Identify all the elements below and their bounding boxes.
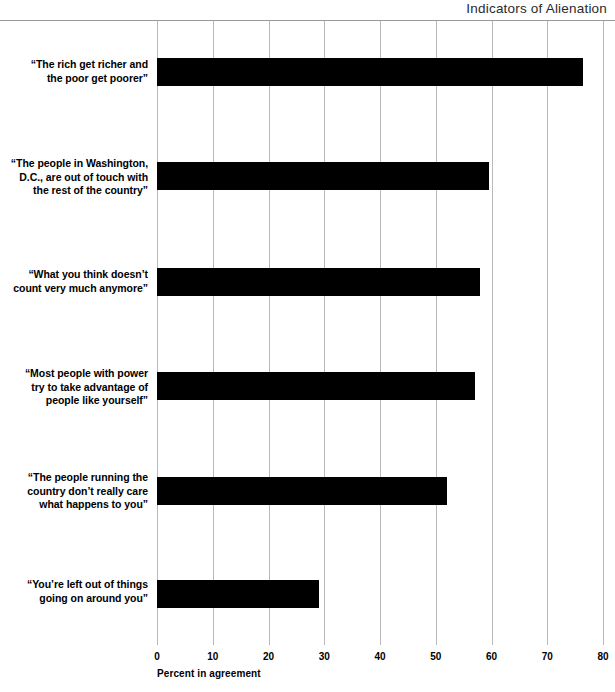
bar: [157, 372, 475, 400]
category-label-line: “The rich get richer and: [0, 58, 148, 72]
category-label-line: country don’t really care: [0, 485, 148, 499]
gridline: [492, 21, 493, 645]
x-tick-label: 60: [486, 651, 497, 662]
category-label: “Most people with powertry to take advan…: [0, 367, 148, 408]
gridline: [269, 21, 270, 645]
gridline: [436, 21, 437, 645]
bar: [157, 477, 447, 505]
gridline: [380, 21, 381, 645]
category-label-line: count very much anymore”: [0, 282, 148, 296]
x-tick-label: 50: [430, 651, 441, 662]
gridline: [603, 21, 604, 645]
chart-figure: Indicators of Alienation “The rich get r…: [0, 0, 615, 692]
plot-area: [157, 21, 603, 645]
category-label-line: “You’re left out of things: [0, 578, 148, 592]
category-label: “The rich get richer andthe poor get poo…: [0, 58, 148, 85]
gridline: [547, 21, 548, 645]
x-axis-title: Percent in agreement: [157, 668, 261, 679]
x-tick-label: 20: [263, 651, 274, 662]
x-tick-label: 10: [207, 651, 218, 662]
category-label-line: “The people running the: [0, 471, 148, 485]
category-label: “The people in Washington,D.C., are out …: [0, 157, 148, 198]
x-tick-label: 70: [542, 651, 553, 662]
gridline: [213, 21, 214, 645]
category-label-line: the poor get poorer”: [0, 72, 148, 86]
x-tick-label: 40: [374, 651, 385, 662]
x-tick-label: 30: [319, 651, 330, 662]
category-label-line: “Most people with power: [0, 367, 148, 381]
category-label-line: D.C., are out of touch with: [0, 171, 148, 185]
category-label-line: “The people in Washington,: [0, 157, 148, 171]
category-label-line: “What you think doesn’t: [0, 268, 148, 282]
category-label: “What you think doesn’tcount very much a…: [0, 268, 148, 295]
x-tick-label: 0: [154, 651, 160, 662]
x-tick-label: 80: [597, 651, 608, 662]
category-label: “The people running thecountry don’t rea…: [0, 471, 148, 512]
gridline: [324, 21, 325, 645]
bar: [157, 580, 319, 608]
category-label-line: what happens to you”: [0, 498, 148, 512]
bar: [157, 268, 480, 296]
category-label-line: going on around you”: [0, 592, 148, 606]
category-label-line: the rest of the country”: [0, 184, 148, 198]
category-label-line: people like yourself”: [0, 394, 148, 408]
category-label: “You’re left out of thingsgoing on aroun…: [0, 578, 148, 605]
gridline: [157, 21, 158, 645]
chart-title: Indicators of Alienation: [466, 1, 607, 16]
category-label-line: try to take advantage of: [0, 381, 148, 395]
bar: [157, 162, 489, 190]
bar: [157, 58, 583, 86]
